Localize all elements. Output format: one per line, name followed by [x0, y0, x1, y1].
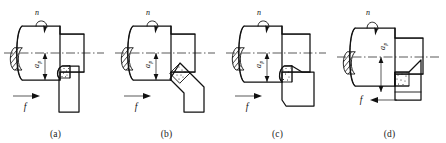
- rotation-label: n: [35, 8, 39, 17]
- panel-a-drawing: n a p f: [0, 0, 111, 143]
- depth-label-subscript: p: [258, 60, 264, 64]
- workpiece-end-arc: [239, 26, 244, 82]
- panel-caption-b: (b): [111, 129, 222, 139]
- feed-arrowhead: [32, 93, 40, 99]
- rotation-label: n: [146, 8, 150, 17]
- insert-speckles: [282, 68, 291, 81]
- figure-panel-a: n a p f: [0, 0, 111, 143]
- feed-arrowhead: [143, 93, 151, 99]
- section-hatching: [224, 34, 252, 86]
- rotation-arrowhead: [43, 26, 47, 34]
- feed-label: f: [360, 95, 364, 105]
- depth-label-subscript: p: [147, 60, 153, 64]
- depth-label-group: a p: [32, 60, 42, 68]
- depth-label-subscript: p: [382, 42, 388, 46]
- depth-arrowhead-down: [379, 86, 384, 92]
- panel-d-drawing: n a p f: [333, 0, 446, 143]
- tool-shank-outline: [58, 66, 79, 112]
- depth-arrowhead-down: [43, 74, 48, 80]
- depth-label-group: a p: [143, 60, 153, 68]
- panel-c-drawing: n a p f: [222, 0, 333, 143]
- feed-label: f: [24, 102, 28, 112]
- section-hatching: [113, 34, 141, 86]
- section-hatching: [2, 34, 30, 86]
- depth-label: a: [143, 64, 152, 68]
- rotation-arrowhead: [374, 28, 378, 36]
- depth-arrowhead-down: [265, 76, 270, 82]
- figure-panel-d: n a p f: [333, 0, 446, 143]
- rotation-label: n: [257, 8, 261, 17]
- depth-label-group: a p: [378, 42, 388, 50]
- rotation-arrowhead: [265, 26, 269, 34]
- insert-speckles: [60, 68, 69, 77]
- section-hatching: [335, 38, 363, 90]
- feed-label: f: [246, 102, 250, 112]
- panel-caption-a: (a): [0, 129, 111, 139]
- depth-label: a: [254, 64, 263, 68]
- depth-label-group: a p: [254, 60, 264, 68]
- depth-arrowhead-up: [43, 53, 48, 59]
- panel-caption-c: (c): [222, 129, 333, 139]
- depth-label: a: [32, 64, 41, 68]
- depth-label-subscript: p: [36, 60, 42, 64]
- figure-panel-b: n a p f: [111, 0, 222, 143]
- depth-arrowhead-down: [154, 74, 159, 80]
- panel-caption-d: (d): [333, 129, 446, 139]
- feed-label: f: [135, 102, 139, 112]
- panel-b-drawing: n a p f: [111, 0, 222, 143]
- figure-canvas: n a p f: [0, 0, 446, 143]
- rotation-arrowhead: [154, 26, 158, 34]
- rotation-label: n: [366, 8, 370, 17]
- tool-shank-outline: [395, 60, 421, 100]
- depth-arrowhead-up: [379, 57, 384, 63]
- feed-arrowhead: [254, 93, 262, 99]
- depth-label: a: [378, 46, 387, 50]
- depth-arrowhead-up: [154, 53, 159, 59]
- tool-insert-outline: [170, 63, 190, 83]
- feed-arrowhead: [370, 97, 378, 103]
- figure-panel-c: n a p f: [222, 0, 333, 143]
- depth-arrowhead-up: [265, 53, 270, 59]
